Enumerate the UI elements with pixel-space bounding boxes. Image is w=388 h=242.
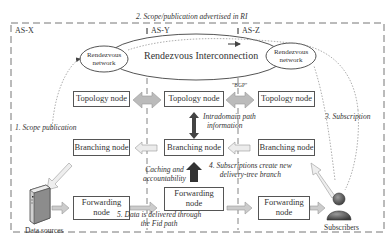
step4-line1: 4. Subscriptions create new <box>209 161 292 170</box>
as-y-label: AS-Y <box>151 26 170 35</box>
forwarding-node-z: Forwarding node <box>258 196 310 220</box>
as-z-label: AS-Z <box>242 26 260 35</box>
topology-node-x: Topology node <box>73 91 130 107</box>
step5-line1: 5. Data is delivered through <box>117 210 201 219</box>
subscribers-label: Subscribers <box>324 223 359 232</box>
intradomain-line2: information <box>203 121 256 130</box>
bgp-label: "BGP" <box>232 82 247 88</box>
rendezvous-network-left: Rendezvous network <box>83 51 125 67</box>
rendezvous-interconnection-label: Rendezvous Interconnection <box>144 50 258 61</box>
topology-node-y: Topology node <box>164 91 224 107</box>
server-icon <box>30 185 50 224</box>
step4-line2: delivery-tree branch <box>209 170 292 179</box>
topology-node-z: Topology node <box>258 91 315 107</box>
step4-label: 4. Subscriptions create new delivery-tre… <box>209 161 292 179</box>
caching-line2: accountability <box>143 174 186 183</box>
data-sources-label: Data sources <box>25 226 64 235</box>
as-x-label: AS-X <box>15 26 34 35</box>
step5-label: 5. Data is delivered through the Fid pat… <box>117 210 201 228</box>
user-icon <box>327 193 351 220</box>
branching-node-y: Branching node <box>164 139 224 156</box>
forwarding-node-y: Forwarding node <box>164 187 224 211</box>
step1-label: 1. Scope publication <box>15 123 76 132</box>
rendezvous-network-right-text: Rendezvous network <box>274 48 308 64</box>
step2-label: 2. Scope/publication advertised in RI <box>136 12 247 21</box>
branching-node-x: Branching node <box>73 139 130 156</box>
caching-line1: Caching and <box>143 165 186 174</box>
intradomain-label: Intradomain path information <box>203 112 256 130</box>
caching-label: Caching and accountability <box>143 165 186 183</box>
intradomain-line1: Intradomain path <box>203 112 256 121</box>
rendezvous-network-right: Rendezvous network <box>270 48 312 64</box>
branching-node-z: Branching node <box>258 139 315 156</box>
step5-line2: the Fid path <box>117 219 201 228</box>
rendezvous-network-left-text: Rendezvous network <box>87 51 121 67</box>
step3-label: 3. Subscription <box>325 112 370 121</box>
